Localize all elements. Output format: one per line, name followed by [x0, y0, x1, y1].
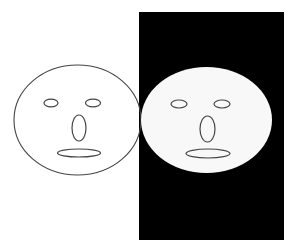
right-face-outline	[141, 67, 272, 173]
face-illusion-diagram	[0, 0, 295, 252]
right-face	[141, 67, 272, 173]
